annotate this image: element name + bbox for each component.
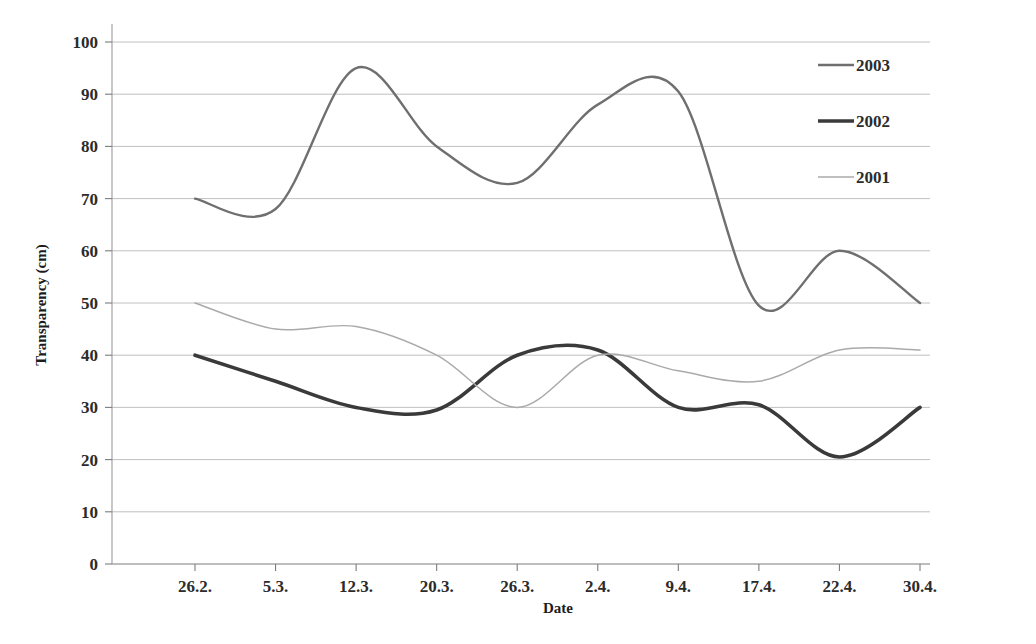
y-tick-label: 90 — [81, 85, 98, 104]
y-tick-label: 50 — [81, 294, 98, 313]
x-tick-label: 26.2. — [178, 577, 212, 596]
legend-label-2003: 2003 — [856, 56, 890, 75]
y-tick-label: 100 — [73, 33, 99, 52]
x-tick-label: 12.3. — [339, 577, 373, 596]
x-tick-label: 26.3. — [500, 577, 534, 596]
x-axis-title: Date — [543, 600, 573, 616]
y-tick-label: 80 — [81, 137, 98, 156]
transparency-line-chart: 0102030405060708090100 26.2.5.3.12.3.20.… — [0, 0, 1036, 644]
x-tick-label: 30.4. — [903, 577, 937, 596]
chart-canvas: 0102030405060708090100 26.2.5.3.12.3.20.… — [0, 0, 1036, 644]
x-tick-label: 20.3. — [420, 577, 454, 596]
legend-label-2002: 2002 — [856, 112, 890, 131]
y-axis-title: Transparency (cm) — [33, 244, 50, 366]
y-tick-label: 70 — [81, 190, 98, 209]
x-tick-label: 17.4. — [742, 577, 776, 596]
legend-label-2001: 2001 — [856, 168, 890, 187]
chart-background — [0, 0, 1036, 644]
x-tick-label: 5.3. — [263, 577, 289, 596]
y-tick-label: 60 — [81, 242, 98, 261]
y-tick-label: 30 — [81, 398, 98, 417]
y-tick-label: 0 — [90, 555, 99, 574]
x-tick-label: 9.4. — [666, 577, 692, 596]
y-tick-label: 10 — [81, 503, 98, 522]
y-tick-label: 20 — [81, 451, 98, 470]
x-tick-label: 2.4. — [585, 577, 611, 596]
x-tick-label: 22.4. — [822, 577, 856, 596]
y-tick-label: 40 — [81, 346, 98, 365]
